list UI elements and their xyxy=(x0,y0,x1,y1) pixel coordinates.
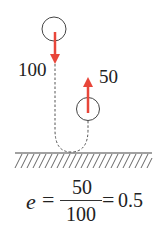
fraction-bar xyxy=(60,200,102,201)
incoming-speed-label: 100 xyxy=(18,60,47,79)
down-arrow-head-icon xyxy=(50,54,60,64)
equals-sign-2: = xyxy=(102,187,114,213)
fraction-numerator: 50 xyxy=(64,176,100,199)
restitution-equation: e = 50 100 = 0.5 xyxy=(0,178,165,226)
equals-sign: = xyxy=(42,187,54,213)
outgoing-speed-label: 50 xyxy=(99,67,118,86)
fraction-denominator: 100 xyxy=(60,203,102,226)
up-arrow-head-icon xyxy=(83,77,93,87)
ground-hatch xyxy=(15,154,152,168)
equation-result: 0.5 xyxy=(118,189,143,212)
equation-symbol: e xyxy=(26,189,36,215)
